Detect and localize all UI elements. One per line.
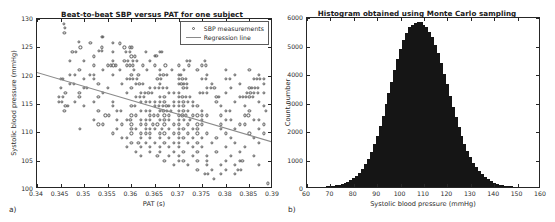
scatter-point	[234, 73, 237, 76]
scatter-point	[202, 91, 205, 94]
scatter-point	[149, 145, 152, 148]
scatter-point	[256, 91, 259, 94]
scatter-point	[196, 159, 199, 162]
scatter-point	[177, 145, 180, 148]
panel-b-axes	[306, 17, 540, 188]
ytick-mark	[37, 76, 40, 77]
scatter-point	[142, 64, 145, 67]
scatter-point	[163, 123, 166, 126]
scatter-point	[257, 100, 260, 103]
scatter-point	[153, 127, 156, 130]
legend-label-regression: Regression line	[204, 34, 251, 41]
scatter-point	[172, 164, 175, 167]
scatter-point	[163, 96, 166, 99]
regression-line	[37, 72, 272, 143]
scatter-point	[177, 141, 180, 144]
scatter-point	[60, 100, 63, 103]
scatter-point	[253, 155, 256, 158]
scatter-point	[139, 118, 142, 121]
scatter-point	[143, 91, 146, 94]
scatter-point	[160, 77, 163, 80]
scatter-point	[267, 182, 270, 185]
scatter-point	[158, 73, 161, 76]
ytick-mark	[307, 75, 310, 76]
scatter-point	[224, 145, 227, 148]
xtick-mark	[226, 184, 227, 187]
scatter-point	[201, 123, 204, 126]
scatter-point	[149, 132, 152, 135]
scatter-point	[258, 77, 261, 80]
xtick-mark	[401, 184, 402, 187]
scatter-point	[249, 91, 252, 94]
scatter-point	[156, 123, 159, 126]
scatter-point	[149, 109, 152, 112]
scatter-point	[149, 127, 152, 130]
scatter-point	[73, 73, 76, 76]
scatter-point	[156, 114, 159, 117]
legend-label-sbp: SBP measurements	[204, 25, 264, 32]
scatter-point	[83, 77, 86, 80]
scatter-point	[185, 77, 188, 80]
scatter-point	[59, 87, 62, 90]
ytick-mark	[268, 76, 271, 77]
scatter-point	[116, 109, 119, 112]
scatter-point	[151, 123, 154, 126]
scatter-point	[66, 105, 69, 108]
ytick-label: 115	[0, 100, 33, 107]
scatter-point	[153, 100, 156, 103]
scatter-point	[191, 127, 194, 130]
scatter-point	[158, 132, 161, 135]
scatter-point	[101, 35, 104, 38]
scatter-point	[111, 132, 114, 135]
scatter-point	[161, 105, 164, 108]
ytick-mark	[536, 47, 539, 48]
xtick-mark	[518, 18, 519, 21]
scatter-point	[257, 141, 260, 144]
scatter-point	[119, 109, 122, 112]
scatter-point	[196, 114, 199, 117]
ytick-label: 105	[0, 156, 33, 163]
scatter-point	[130, 123, 133, 126]
scatter-point	[206, 173, 209, 176]
scatter-point	[243, 145, 246, 148]
xtick-mark	[377, 184, 378, 187]
scatter-point	[125, 118, 128, 121]
ytick-label: 130	[0, 15, 33, 22]
scatter-point	[158, 136, 161, 139]
scatter-point	[201, 136, 204, 139]
ytick-mark	[268, 104, 271, 105]
scatter-point	[191, 114, 194, 117]
ytick-mark	[536, 161, 539, 162]
scatter-point	[161, 87, 164, 90]
scatter-point	[253, 118, 256, 121]
scatter-point	[168, 114, 171, 117]
scatter-point	[149, 114, 152, 117]
scatter-point	[210, 82, 213, 85]
scatter-point	[101, 68, 104, 71]
scatter-point	[130, 127, 133, 130]
scatter-point	[144, 109, 147, 112]
scatter-point	[144, 118, 147, 121]
scatter-point	[132, 59, 135, 62]
scatter-point	[78, 91, 81, 94]
scatter-point	[111, 100, 114, 103]
scatter-point	[229, 155, 232, 158]
scatter-point	[130, 141, 133, 144]
scatter-point	[168, 118, 171, 121]
scatter-point	[153, 64, 156, 67]
panel-b-xlabel: Systolic blood pressure (mmHg)	[306, 200, 540, 208]
scatter-point	[248, 109, 251, 112]
scatter-point	[253, 91, 256, 94]
scatter-point	[88, 73, 91, 76]
scatter-point	[248, 96, 251, 99]
histogram-bar	[534, 187, 537, 188]
xtick-mark	[377, 18, 378, 21]
xtick-label: 80	[349, 190, 357, 197]
scatter-point	[170, 68, 173, 71]
scatter-point	[163, 132, 166, 135]
scatter-point	[125, 136, 128, 139]
scatter-point	[107, 114, 110, 117]
scatter-point	[219, 105, 222, 108]
scatter-point	[111, 105, 114, 108]
xtick-mark	[354, 184, 355, 187]
